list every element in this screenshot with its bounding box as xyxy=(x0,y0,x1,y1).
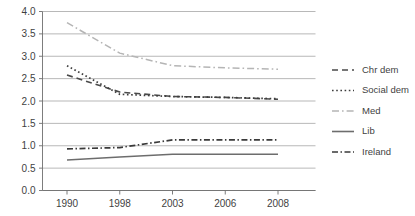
x-axis-tick-label: 1990 xyxy=(56,198,79,209)
gridlines xyxy=(43,12,316,191)
series-line-social-dem xyxy=(67,66,278,99)
y-axis-tick-labels: 0.00.51.01.52.02.53.03.54.0 xyxy=(22,6,36,196)
legend-label-med: Med xyxy=(362,105,380,116)
series-lines xyxy=(67,23,278,160)
y-axis-tick-label: 3.0 xyxy=(22,51,36,62)
x-axis-tick-label: 1998 xyxy=(109,198,132,209)
y-axis-tick-label: 1.0 xyxy=(22,140,36,151)
x-tick-marks xyxy=(39,12,278,195)
series-line-med xyxy=(67,23,278,70)
x-axis-tick-label: 2008 xyxy=(267,198,290,209)
legend-label-lib: Lib xyxy=(362,125,375,136)
y-axis-tick-label: 0.0 xyxy=(22,185,36,196)
x-axis-tick-label: 2006 xyxy=(214,198,237,209)
chart-canvas: 0.00.51.01.52.02.53.03.54.0 199019982003… xyxy=(0,0,415,216)
series-line-lib xyxy=(67,154,278,160)
series-line-ireland xyxy=(67,140,278,149)
y-axis-tick-label: 1.5 xyxy=(22,118,36,129)
legend-label-chr-dem: Chr dem xyxy=(362,64,399,75)
line-chart: 0.00.51.01.52.02.53.03.54.0 199019982003… xyxy=(0,0,415,216)
chart-legend: Chr demSocial demMedLibIreland xyxy=(332,64,409,157)
y-axis-tick-label: 4.0 xyxy=(22,6,36,17)
legend-label-social-dem: Social dem xyxy=(362,84,409,95)
y-axis-tick-label: 2.0 xyxy=(22,96,36,107)
y-axis-tick-label: 2.5 xyxy=(22,73,36,84)
y-axis-tick-label: 0.5 xyxy=(22,163,36,174)
y-axis-tick-label: 3.5 xyxy=(22,28,36,39)
x-axis-tick-labels: 19901998200320062008 xyxy=(56,198,290,209)
x-axis-tick-label: 2003 xyxy=(161,198,184,209)
legend-label-ireland: Ireland xyxy=(362,146,391,157)
